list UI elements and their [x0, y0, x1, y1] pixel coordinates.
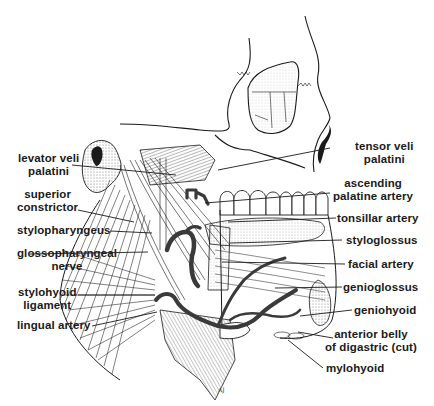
label-glossopharyngeal-nerve: glossopharyngeal nerve	[17, 247, 117, 273]
label-lingual-artery: lingual artery	[17, 319, 91, 332]
label-stylohyoid-ligament: stylohyoid ligament	[18, 286, 77, 312]
label-styloglossus: styloglossus	[346, 234, 418, 247]
label-anterior-belly-of-digastric: anterior belly of digastric (cut)	[325, 328, 417, 354]
skull-outline	[120, 16, 330, 172]
label-stylopharyngeus: stylopharyngeus	[17, 224, 111, 237]
label-geniohyoid: geniohyoid	[354, 304, 416, 317]
palate-muscles	[140, 145, 215, 185]
label-genioglossus: genioglossus	[343, 281, 418, 294]
label-tensor-veli-palatini: tensor veli palatini	[355, 140, 414, 166]
label-tonsillar-artery: tonsillar artery	[337, 212, 419, 225]
artist-signature: AJ	[217, 386, 225, 394]
label-ascending-palatine-artery: ascending palatine artery	[333, 177, 413, 203]
genioglossus-fibers	[215, 250, 325, 300]
styloglossus-muscle	[208, 225, 230, 290]
nasal-ala-shape	[318, 124, 331, 164]
label-mylohyoid: mylohyoid	[326, 362, 384, 375]
anatomy-figure: AJ levator veli palatini superior constr…	[0, 0, 434, 406]
label-facial-artery: facial artery	[348, 258, 414, 271]
label-levator-veli-palatini: levator veli palatini	[18, 152, 79, 178]
label-superior-constrictor: superior constrictor	[17, 188, 78, 214]
